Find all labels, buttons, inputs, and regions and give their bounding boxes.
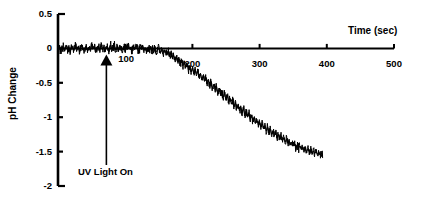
ph-change-time-chart: 0.5 0 -0.5 -1 -1.5 -2 100 200 300 400 50… <box>0 0 422 199</box>
uv-light-on-annotation-label: UV Light On <box>78 166 133 177</box>
x-tick-label-200: 200 <box>180 58 204 69</box>
x-tick-label-300: 300 <box>248 58 272 69</box>
y-tick-label-3: -1 <box>18 111 52 122</box>
x-axis-title: Time (sec) <box>348 25 397 36</box>
y-axis-title: pH Change <box>7 58 18 130</box>
x-tick-label-100: 100 <box>114 53 138 64</box>
annotation-group <box>100 54 112 165</box>
x-tick-label-400: 400 <box>315 58 339 69</box>
x-tick-label-500: 500 <box>382 58 406 69</box>
y-tick-label-4: -1.5 <box>18 146 52 157</box>
y-tick-label-0: 0.5 <box>18 8 52 19</box>
y-tick-label-2: -0.5 <box>18 77 52 88</box>
y-tick-label-1: 0 <box>18 42 52 53</box>
uv-arrow-head <box>100 54 112 65</box>
y-tick-label-5: -2 <box>18 180 52 191</box>
